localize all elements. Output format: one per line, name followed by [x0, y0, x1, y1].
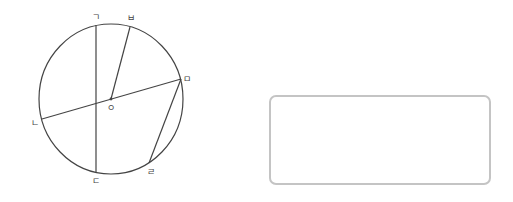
- point-label-n: ㄴ: [31, 118, 39, 128]
- center-point: [110, 98, 113, 101]
- point-label-g: ㄱ: [92, 12, 100, 22]
- chord-m-r: [149, 79, 181, 163]
- center-label: ㅇ: [107, 103, 115, 113]
- point-label-d: ㄷ: [92, 176, 100, 186]
- answer-box[interactable]: [269, 95, 491, 185]
- point-label-b: ㅂ: [127, 13, 135, 23]
- point-label-r: ㄹ: [147, 167, 155, 177]
- circle-geometry-diagram: ㅇ ㄱㄴㄷㄹㅁㅂ: [0, 0, 260, 202]
- radius-o-b: [111, 27, 130, 99]
- point-label-m: ㅁ: [183, 74, 191, 84]
